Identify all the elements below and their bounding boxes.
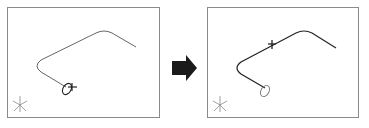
axis-triad-icon bbox=[213, 96, 227, 112]
sweep-path bbox=[237, 31, 336, 88]
after-view bbox=[208, 8, 360, 119]
after-panel bbox=[207, 7, 359, 118]
cross-marker-icon bbox=[68, 83, 77, 91]
diagram-stage bbox=[0, 0, 369, 128]
sweep-path bbox=[37, 31, 136, 87]
before-panel bbox=[7, 7, 160, 118]
before-view bbox=[8, 8, 161, 119]
axis-triad-icon bbox=[13, 96, 27, 112]
right-arrow-icon bbox=[170, 54, 198, 82]
